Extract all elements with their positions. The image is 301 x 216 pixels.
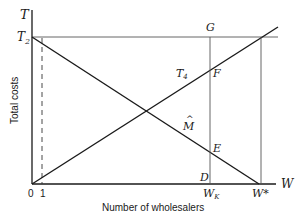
t2-label: T2 — [17, 30, 30, 46]
x-axis-symbol: W — [281, 177, 295, 191]
y-axis-label: Total costs — [9, 77, 20, 124]
tick-one-label: 1 — [40, 188, 46, 199]
cost-diagram: T T2 Total costs 0 1 Number of wholesale… — [0, 0, 301, 216]
rising-cost-line — [32, 27, 278, 184]
wstar-label: W* — [252, 187, 269, 200]
x-axis-label: Number of wholesalers — [102, 202, 204, 213]
origin-label: 0 — [28, 188, 34, 199]
point-g-label: G — [206, 21, 215, 34]
t4-label: T4 — [176, 67, 188, 81]
y-axis-symbol: T — [20, 7, 30, 22]
m-hat-label: M — [182, 120, 195, 133]
point-f-label: F — [212, 67, 221, 80]
point-e-label: E — [212, 142, 221, 155]
wk-label: WK — [203, 187, 220, 201]
point-d-label: D — [199, 171, 209, 184]
